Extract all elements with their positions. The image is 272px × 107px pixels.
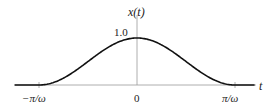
tick-label-pi-over-omega: π/ω — [222, 93, 238, 104]
tick-label-neg-pi-over-omega: −π/ω — [22, 93, 46, 104]
signal-curve — [15, 38, 255, 85]
tick-label-zero: 0 — [134, 93, 140, 104]
y-axis-label: x(t) — [128, 6, 145, 18]
x-axis-label: t — [259, 80, 262, 92]
y-peak-label: 1.0 — [114, 27, 128, 38]
